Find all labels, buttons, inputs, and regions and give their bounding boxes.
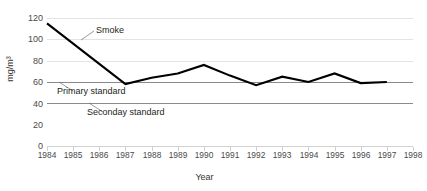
x-tick-label: 1993 [267,150,297,160]
x-axis-tick-labels: 1984 1985 1986 1987 1988 1989 1990 1991 … [0,150,421,164]
smoke-series-label: Smoke [96,25,124,35]
x-tick-label: 1987 [110,150,140,160]
y-tick-label: 100 [9,35,43,44]
y-tick-label: 60 [9,78,43,87]
primary-standard-label: Primary standard [57,86,126,96]
series-svg [47,18,413,146]
y-tick-label: 20 [9,121,43,130]
y-tick-label: 40 [9,100,43,109]
smoke-leader-line [81,31,94,40]
plot-area: Smoke Primary standard Seconday standard [47,18,413,146]
x-axis-title: Year [0,172,421,182]
x-axis-title-text: Year [195,172,213,182]
y-tick-label: 80 [9,57,43,66]
seconday-standard-label: Seconday standard [87,107,165,117]
chart-title [22,0,412,3]
y-tick-label: 120 [9,14,43,23]
x-tick-label: 1998 [398,150,427,160]
